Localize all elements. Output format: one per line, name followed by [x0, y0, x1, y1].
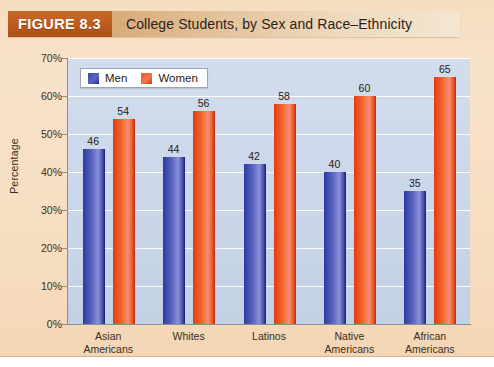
figure-title-bar: FIGURE 8.3 College Students, by Sex and … — [8, 11, 460, 37]
bar-value-label: 56 — [198, 97, 210, 109]
y-axis-tick — [62, 58, 68, 59]
category-label-line: Asian — [62, 330, 154, 343]
y-axis-tick-label: 50% — [24, 128, 62, 140]
legend-item-women: Women — [141, 72, 197, 84]
y-axis-tick-labels: 0%10%20%30%40%50%60%70% — [20, 42, 62, 342]
bar-women-latinos — [274, 104, 296, 324]
category-label-line: Native — [303, 330, 395, 343]
bar-value-label: 65 — [439, 63, 451, 75]
figure-container: FIGURE 8.3 College Students, by Sex and … — [0, 0, 494, 367]
x-axis-category-label: AsianAmericans — [62, 330, 154, 355]
category-label-line: Americans — [384, 343, 476, 356]
x-axis-line — [67, 324, 471, 325]
y-axis-tick — [62, 248, 68, 249]
bar-women-african-americans — [434, 77, 456, 324]
legend-swatch-men-icon — [88, 73, 99, 84]
legend-label-women: Women — [158, 72, 197, 84]
bar-women-whites — [193, 111, 215, 324]
y-axis-tick-label: 30% — [24, 204, 62, 216]
bar-men-native-americans — [324, 172, 346, 324]
category-label-line: Whites — [143, 330, 235, 343]
y-axis-tick — [62, 286, 68, 287]
category-label-line: Latinos — [223, 330, 315, 343]
bar-men-asian-americans — [83, 149, 105, 324]
bar-men-latinos — [244, 164, 266, 324]
y-axis-tick — [62, 324, 68, 325]
chart-legend: Men Women — [80, 68, 208, 88]
gridline — [68, 96, 470, 97]
x-axis-category-label: Latinos — [223, 330, 315, 343]
bar-value-label: 46 — [87, 135, 99, 147]
bar-value-label: 54 — [117, 105, 129, 117]
bar-value-label: 35 — [409, 177, 421, 189]
bar-value-label: 44 — [168, 143, 180, 155]
legend-item-men: Men — [88, 72, 127, 84]
y-axis-tick-label: 10% — [24, 280, 62, 292]
y-axis-tick — [62, 210, 68, 211]
legend-swatch-women-icon — [141, 73, 152, 84]
y-axis-tick-label: 20% — [24, 242, 62, 254]
gridline — [68, 58, 470, 59]
bar-value-label: 42 — [248, 150, 260, 162]
y-axis-tick — [62, 172, 68, 173]
y-axis-tick — [62, 134, 68, 135]
y-axis-tick-label: 0% — [24, 318, 62, 330]
legend-label-men: Men — [105, 72, 127, 84]
figure-number-badge: FIGURE 8.3 — [8, 11, 112, 37]
x-axis-category-label: NativeAmericans — [303, 330, 395, 355]
y-axis-line — [67, 58, 68, 325]
bar-men-african-americans — [404, 191, 426, 324]
y-axis-tick-label: 70% — [24, 52, 62, 64]
chart: 0%10%20%30%40%50%60%70% Percentage 46544… — [0, 42, 494, 357]
y-axis-tick-label: 40% — [24, 166, 62, 178]
bar-women-asian-americans — [113, 119, 135, 324]
category-label-line: Americans — [62, 343, 154, 356]
bar-value-label: 58 — [278, 90, 290, 102]
bar-women-native-americans — [354, 96, 376, 324]
page-bottom-margin — [0, 357, 494, 367]
bar-value-label: 40 — [329, 158, 341, 170]
figure-title-text: College Students, by Sex and Race–Ethnic… — [112, 11, 412, 37]
bar-value-label: 60 — [359, 82, 371, 94]
y-axis-title: Percentage — [8, 116, 20, 216]
bar-men-whites — [163, 157, 185, 324]
y-axis-tick — [62, 96, 68, 97]
y-axis-tick-label: 60% — [24, 90, 62, 102]
category-label-line: Americans — [303, 343, 395, 356]
x-axis-category-label: Whites — [143, 330, 235, 343]
category-label-line: African — [384, 330, 476, 343]
x-axis-category-label: AfricanAmericans — [384, 330, 476, 355]
